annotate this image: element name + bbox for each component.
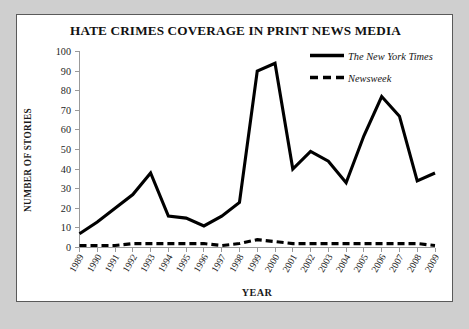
x-tick-label: 1996	[191, 252, 210, 274]
x-tick-label: 2005	[351, 252, 370, 274]
svg-text:100: 100	[56, 46, 71, 57]
x-tick-label: 1990	[84, 252, 103, 274]
x-tick-label: 1995	[173, 252, 192, 274]
x-tick-label: 1993	[138, 252, 157, 274]
x-tick-label: 2007	[387, 252, 406, 274]
svg-text:30: 30	[61, 183, 71, 194]
x-axis-label: YEAR	[242, 287, 273, 298]
y-axis-ticks: 100 90 80 70 60 50 40 30 20 10	[56, 46, 80, 253]
chart-plot-area: NUMBER OF STORIES 100 90 80 70 60 50	[17, 15, 452, 301]
x-tick-label: 1994	[155, 252, 174, 274]
series-line-the-new-york-times	[80, 63, 436, 234]
x-axis-tick-labels: 1989199019911992199319941995199619971998…	[67, 252, 442, 274]
x-axis-ticks	[80, 248, 436, 252]
x-tick-label: 2003	[315, 252, 334, 274]
x-tick-label: 2009	[422, 252, 441, 274]
x-tick-label: 2004	[333, 252, 352, 274]
legend-label-newsweek: Newsweek	[347, 73, 392, 84]
series-line-newsweek	[80, 240, 436, 246]
svg-text:80: 80	[61, 85, 71, 96]
y-axis-label: NUMBER OF STORIES	[23, 108, 33, 212]
x-tick-label: 1991	[102, 252, 121, 274]
svg-text:70: 70	[61, 105, 71, 116]
svg-text:40: 40	[61, 164, 71, 175]
x-tick-label: 2002	[298, 252, 317, 274]
chart-legend: The New York Times Newsweek	[310, 51, 433, 84]
chart-frame: HATE CRIMES COVERAGE IN PRINT NEWS MEDIA…	[16, 14, 453, 302]
x-tick-label: 1989	[67, 252, 86, 274]
svg-text:60: 60	[61, 124, 71, 135]
x-tick-label: 1999	[244, 252, 263, 274]
x-tick-label: 2000	[262, 252, 281, 274]
svg-text:20: 20	[61, 203, 71, 214]
figure-background: HATE CRIMES COVERAGE IN PRINT NEWS MEDIA…	[0, 0, 469, 329]
svg-text:10: 10	[61, 222, 71, 233]
x-tick-label: 1992	[120, 252, 139, 274]
svg-text:90: 90	[61, 66, 71, 77]
x-tick-label: 2001	[280, 252, 299, 274]
svg-text:50: 50	[61, 144, 71, 155]
svg-text:0: 0	[66, 242, 71, 253]
x-tick-label: 1997	[209, 252, 228, 274]
x-tick-label: 1998	[227, 252, 246, 274]
x-tick-label: 2006	[369, 252, 388, 274]
x-tick-label: 2008	[404, 252, 423, 274]
legend-label-the-new-york-times: The New York Times	[348, 51, 433, 62]
